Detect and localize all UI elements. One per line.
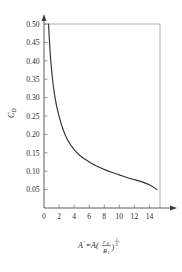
y-tick-label: 0.45 <box>26 38 39 47</box>
y-tick-label: 0.15 <box>26 149 39 158</box>
x-tick-label: 12 <box>131 212 139 221</box>
x-title-exp-den: 2 <box>116 242 119 247</box>
x-title-num-sub: 0 <box>107 241 110 246</box>
y-tick-label: 0.40 <box>26 57 39 66</box>
x-title-A: A <box>77 241 83 250</box>
y-tick-label: 0.05 <box>26 185 39 194</box>
x-tick-label: 0 <box>42 212 46 221</box>
chart-figure: 0.050.100.150.200.250.300.350.400.450.50… <box>0 0 182 272</box>
x-tick-label: 10 <box>116 212 124 221</box>
plot-frame <box>44 24 160 208</box>
x-tick-label: 8 <box>102 212 106 221</box>
x-title-eq: =A( <box>86 241 100 250</box>
x-tick-group: 02468101214 <box>42 205 153 221</box>
x-tick-label: 6 <box>87 212 91 221</box>
x-axis-title: A ' =A( r 0 R 1 ) 1 2 <box>77 237 119 255</box>
x-tick-label: 14 <box>146 212 154 221</box>
x-axis-arrow-icon <box>170 206 177 211</box>
x-tick-label: 4 <box>72 212 76 221</box>
x-tick-label: 2 <box>57 212 61 221</box>
y-tick-label: 0.35 <box>26 75 39 84</box>
cd-vs-aprime-chart: 0.050.100.150.200.250.300.350.400.450.50… <box>0 0 182 272</box>
x-title-close-paren: ) <box>110 243 114 252</box>
frame-top-right <box>44 24 160 208</box>
y-axis-title: C D <box>7 108 17 118</box>
x-title-den: R <box>102 247 107 254</box>
y-tick-label: 0.30 <box>26 93 39 102</box>
x-title-exp-num: 1 <box>116 237 118 242</box>
y-tick-label: 0.50 <box>26 20 39 29</box>
y-tick-label: 0.20 <box>26 130 39 139</box>
data-series-cd <box>49 24 157 190</box>
x-title-num: r <box>103 238 106 245</box>
x-axis <box>44 206 177 211</box>
y-axis-arrow-icon <box>42 14 47 21</box>
y-axis-title-sub: D <box>11 108 17 113</box>
y-axis <box>42 14 47 208</box>
x-title-den-sub: 1 <box>107 250 109 255</box>
y-tick-label: 0.25 <box>26 112 39 121</box>
y-tick-label: 0.10 <box>26 167 39 176</box>
